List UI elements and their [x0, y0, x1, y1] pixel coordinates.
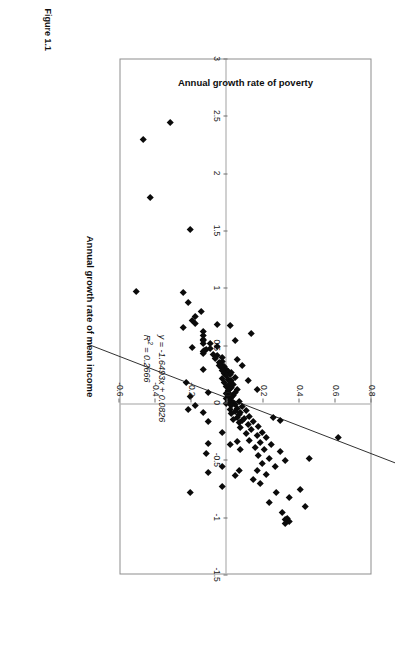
x-tick-label: -1.5 — [211, 567, 221, 581]
x-tick-label: 1 — [211, 285, 221, 290]
y-tick-mark — [118, 398, 119, 402]
figure-caption: Figure 1.1 — [42, 8, 52, 51]
y-tick-label: 0 — [222, 376, 232, 396]
y-tick-label: -0.6 — [114, 376, 124, 396]
x-tick-mark — [223, 517, 227, 518]
y-tick-mark — [370, 398, 371, 402]
y-tick-label: 0.4 — [294, 376, 304, 396]
x-tick-label: -0.5 — [211, 452, 221, 466]
x-tick-mark — [223, 459, 227, 460]
y-tick-mark — [298, 398, 299, 402]
y-tick-label: 0.6 — [330, 376, 340, 396]
x-tick-label: 0.5 — [211, 339, 221, 351]
x-tick-label: 0 — [211, 400, 221, 405]
y-tick-mark — [226, 398, 227, 402]
x-tick-mark — [223, 58, 227, 59]
scatter-plot-area: y = -1.6493x + 0.0826 R2 = 0.2666 — [119, 58, 371, 574]
x-tick-label: 3 — [211, 56, 221, 61]
y-tick-label: -0.4 — [150, 376, 160, 396]
regression-line — [86, 343, 395, 523]
y-tick-mark — [154, 398, 155, 402]
y-tick-mark — [262, 398, 263, 402]
x-tick-mark — [223, 287, 227, 288]
y-tick-mark — [190, 398, 191, 402]
y-tick-label: -0.2 — [186, 376, 196, 396]
x-tick-label: -1 — [211, 513, 221, 520]
r-squared-symbol: R — [141, 334, 151, 341]
r-squared-value: = 0.2666 — [141, 344, 151, 382]
y-axis-title: Annual growth rate of poverty — [177, 76, 312, 87]
x-tick-mark — [223, 115, 227, 116]
x-tick-mark — [223, 574, 227, 575]
figure-page: y = -1.6493x + 0.0826 R2 = 0.2666 32.521… — [0, 0, 395, 649]
rotated-figure-container: y = -1.6493x + 0.0826 R2 = 0.2666 32.521… — [0, 0, 395, 649]
y-tick-mark — [334, 398, 335, 402]
x-tick-mark — [223, 173, 227, 174]
x-tick-mark — [223, 230, 227, 231]
y-tick-label: 0.8 — [366, 376, 376, 396]
x-tick-label: 2 — [211, 170, 221, 175]
x-tick-label: 1.5 — [211, 224, 221, 236]
y-tick-label: 0.2 — [258, 376, 268, 396]
x-tick-mark — [223, 345, 227, 346]
trend-line — [118, 59, 370, 575]
x-axis-title: Annual growth rate of mean income — [84, 58, 95, 574]
x-tick-label: 2.5 — [211, 110, 221, 122]
